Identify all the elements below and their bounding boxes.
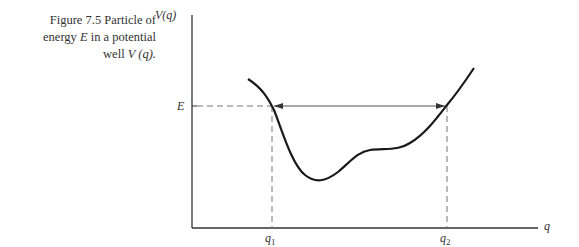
q2-label: q2 — [440, 231, 451, 247]
x-axis-label: q — [544, 219, 550, 234]
energy-label: E — [177, 99, 184, 114]
q1-label: q1 — [265, 231, 276, 247]
y-axis-label: V(q) — [155, 8, 176, 23]
potential-curve — [248, 68, 474, 180]
